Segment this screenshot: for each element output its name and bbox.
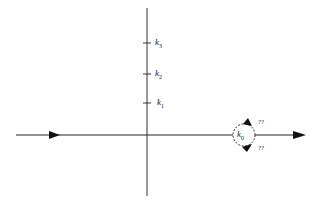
arrow-right-icon — [49, 131, 60, 139]
label-k0: k0 — [237, 130, 244, 141]
label-k2: k2 — [155, 69, 162, 80]
indent-label-bottom: ?? — [258, 145, 264, 152]
diagram-canvas: k3 k2 k1 k0 ?? ?? — [0, 0, 320, 203]
label-k1: k1 — [157, 98, 164, 109]
arrow-bottom-icon — [242, 144, 252, 152]
indent-label-top: ?? — [258, 119, 264, 126]
label-k3: k3 — [155, 38, 162, 49]
arrow-right-end-icon — [293, 131, 306, 139]
arrow-top-icon — [243, 118, 252, 126]
